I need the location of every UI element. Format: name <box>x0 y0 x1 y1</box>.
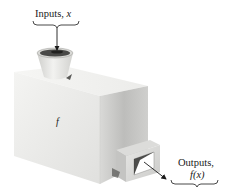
input-variable: x <box>67 8 72 19</box>
input-brace <box>33 21 79 28</box>
input-label: Inputs, x <box>35 9 71 20</box>
output-brace <box>171 180 218 187</box>
output-expression: f(x) <box>190 170 205 181</box>
function-label: f <box>56 117 59 127</box>
function-machine-diagram: Inputs, x f Outputs, f(x) <box>0 0 232 194</box>
output-label: Outputs, <box>178 158 214 169</box>
input-label-text: Inputs, <box>35 8 67 19</box>
